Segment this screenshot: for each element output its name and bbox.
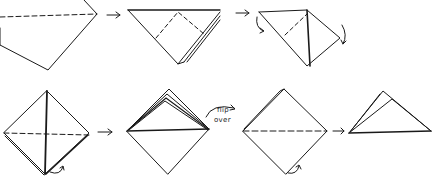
step-4-diamond: [4, 91, 89, 175]
arrow-right-icon: [98, 129, 112, 135]
flip-label: flip: [217, 106, 229, 114]
step-1-diamond: [0, 0, 97, 70]
curved-arrow-icon: [342, 25, 345, 44]
curved-arrow-icon: [257, 17, 263, 31]
step-7-triangle: [349, 91, 431, 133]
over-label: over: [214, 116, 231, 124]
step-2-triangle: [128, 10, 220, 64]
step-5-diamond: [127, 89, 209, 174]
arrow-right-icon: [333, 128, 344, 134]
arrow-right-icon: [236, 10, 249, 16]
origami-diagram: flip over: [0, 0, 434, 178]
arrow-right-icon: [107, 12, 120, 18]
step-3-fold: [257, 10, 346, 66]
step-6-diamond: [243, 89, 327, 174]
